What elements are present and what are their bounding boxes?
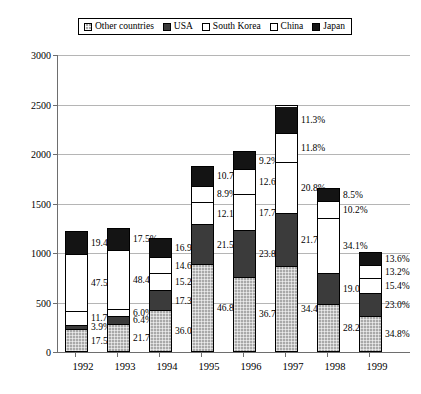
bar-segment[interactable]: 17.5% — [108, 229, 129, 250]
x-axis-tick-label: 1998 — [314, 361, 356, 372]
bar-segment-percent-label: 13.2% — [385, 267, 410, 277]
y-axis-tick-mark — [53, 154, 58, 155]
bar-segment[interactable]: 9.2% — [234, 152, 255, 170]
y-axis-tick-mark — [53, 253, 58, 254]
bar-segment[interactable]: 15.2% — [150, 274, 171, 291]
y-axis-tick-label: 0 — [46, 347, 51, 358]
bar-segment-percent-label: 34.1% — [343, 241, 368, 251]
legend-swatch-icon — [163, 23, 171, 31]
bar-segment-percent-label: 23.0% — [385, 300, 410, 310]
bar-segment[interactable]: 23.8% — [234, 231, 255, 278]
y-axis-tick-label: 2500 — [31, 99, 51, 110]
bar-segment[interactable]: 16.9% — [150, 239, 171, 258]
bar-segment[interactable]: 21.7% — [108, 325, 129, 351]
legend-swatch-icon — [270, 23, 278, 31]
bar-segment[interactable]: 14.6% — [150, 258, 171, 274]
y-axis-tick-mark — [53, 352, 58, 353]
x-axis-tick-label: 1999 — [356, 361, 398, 372]
bar-segment[interactable]: 10.7% — [192, 167, 213, 187]
bar-segment[interactable]: 10.2% — [318, 202, 339, 219]
legend-swatch-icon — [312, 23, 320, 31]
bar-segment-percent-label: 15.4% — [385, 281, 410, 291]
legend-label: Japan — [323, 21, 345, 32]
bar-segment-percent-label: 8.5% — [343, 190, 363, 200]
x-axis-tick-mark — [75, 352, 76, 357]
bar-segment[interactable]: 28.2% — [318, 305, 339, 351]
chart-plot-area: 300025002000150010005000 17.5%3.9%11.7%4… — [58, 55, 410, 352]
bar-segment[interactable]: 3.9% — [66, 326, 87, 331]
bar-segment[interactable]: 47.5% — [66, 255, 87, 311]
bar-segment[interactable]: 19.0% — [318, 274, 339, 305]
bar-segment[interactable]: 6.0% — [108, 310, 129, 317]
legend-swatch-icon — [84, 23, 92, 31]
bar-segment[interactable]: 8.5% — [318, 189, 339, 203]
x-axis-tick-label: 1997 — [272, 361, 314, 372]
legend-entry: USA — [163, 21, 193, 32]
bar-segment[interactable]: 8.9% — [192, 187, 213, 203]
legend-label: Other countries — [95, 21, 154, 32]
y-axis-tick-mark — [53, 204, 58, 205]
bar-segment[interactable]: 12.1% — [192, 203, 213, 225]
stacked-bar[interactable]: 17.5%3.9%11.7%47.5%19.4% — [65, 231, 88, 352]
bar-segment[interactable]: 46.8% — [192, 265, 213, 351]
bar-segment[interactable]: 17.7% — [234, 195, 255, 230]
legend-entry: Japan — [312, 21, 345, 32]
bar-segment[interactable]: 17.3% — [150, 291, 171, 310]
bar-segment[interactable]: 11.8% — [276, 134, 297, 163]
bar-segment[interactable]: 17.5% — [66, 330, 87, 351]
stacked-bar[interactable]: 34.4%21.7%20.8%11.8%11.3% — [275, 105, 298, 352]
y-axis-tick-label: 1000 — [31, 248, 51, 259]
y-axis-tick-mark — [53, 55, 58, 56]
legend-label: South Korea — [213, 21, 261, 32]
bar-segment[interactable]: 20.8% — [276, 163, 297, 214]
bar-segment-percent-label: 34.8% — [385, 329, 410, 339]
bar-segment[interactable]: 13.6% — [360, 253, 381, 266]
x-axis-tick-mark — [369, 352, 370, 357]
bar-segment-percent-label: 11.8% — [301, 143, 325, 153]
bar-segment[interactable]: 21.5% — [192, 225, 213, 265]
bar-segment-percent-label: 10.2% — [343, 205, 368, 215]
stacked-bar[interactable]: 36.7%23.8%17.7%12.6%9.2% — [233, 151, 256, 352]
bar-segment[interactable]: 34.1% — [318, 219, 339, 274]
x-axis-tick-mark — [159, 352, 160, 357]
bar-segment[interactable]: 11.3% — [276, 107, 297, 135]
legend-label: USA — [174, 21, 193, 32]
bar-segment-percent-label: 11.3% — [301, 115, 325, 125]
bar-segment[interactable]: 13.2% — [360, 266, 381, 279]
bar-segment[interactable]: 34.8% — [360, 317, 381, 351]
bar-segment[interactable]: 12.6% — [234, 170, 255, 195]
bar-segment[interactable]: 11.7% — [66, 312, 87, 326]
y-axis-tick-label: 3000 — [31, 50, 51, 61]
bar-segment[interactable]: 15.4% — [360, 279, 381, 294]
x-axis-tick-mark — [327, 352, 328, 357]
bar-segment[interactable]: 19.4% — [66, 232, 87, 255]
stacked-bar[interactable]: 36.0%17.3%15.2%14.6%16.9% — [149, 238, 172, 352]
legend-entry: China — [270, 21, 304, 32]
bar-segment[interactable]: 48.4% — [108, 251, 129, 310]
x-axis-tick-label: 1996 — [230, 361, 272, 372]
y-axis-tick-label: 2000 — [31, 149, 51, 160]
stacked-bar[interactable]: 34.8%23.0%15.4%13.2%13.6% — [359, 252, 382, 352]
bar-segment[interactable]: 36.7% — [234, 278, 255, 351]
bar-segment[interactable]: 21.7% — [276, 214, 297, 267]
bar-segment[interactable]: 23.0% — [360, 294, 381, 317]
y-axis-tick-label: 500 — [36, 297, 51, 308]
stacked-bar[interactable]: 21.7%6.4%6.0%48.4%17.5% — [107, 228, 130, 352]
stacked-bar[interactable]: 46.8%21.5%12.1%8.9%10.7% — [191, 166, 214, 352]
x-axis-tick-label: 1993 — [104, 361, 146, 372]
stacked-bar[interactable]: 28.2%19.0%34.1%10.2%8.5% — [317, 188, 340, 352]
bar-segment[interactable]: 36.0% — [150, 311, 171, 351]
gridline — [58, 55, 410, 56]
x-axis-tick-mark — [201, 352, 202, 357]
legend-entry: South Korea — [202, 21, 261, 32]
legend-swatch-icon — [202, 23, 210, 31]
y-axis-tick-label: 1500 — [31, 198, 51, 209]
legend-entry: Other countries — [84, 21, 154, 32]
bar-segment-percent-label: 13.6% — [385, 254, 410, 264]
bar-segment[interactable]: 6.4% — [108, 317, 129, 325]
x-axis-tick-mark — [285, 352, 286, 357]
chart-legend: Other countriesUSASouth KoreaChinaJapan — [78, 18, 352, 35]
bar-segment[interactable]: 34.4% — [276, 267, 297, 351]
gridline — [58, 105, 410, 106]
x-axis-tick-label: 1994 — [146, 361, 188, 372]
